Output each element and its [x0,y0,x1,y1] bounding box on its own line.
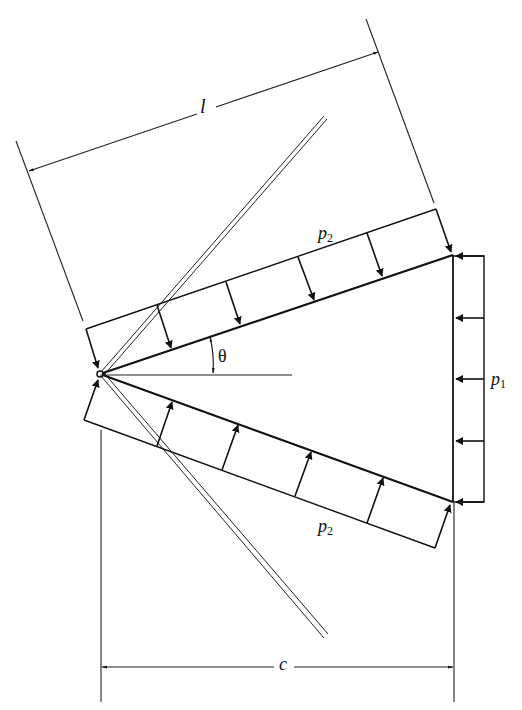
apex-point [97,371,103,377]
dimension-line-l-left [29,114,197,171]
base-p1-load [453,256,484,502]
angle-label: θ [218,347,227,365]
lower-surface [100,374,453,502]
lower-p2-sub: 2 [327,524,333,538]
wedge-body [100,255,453,502]
lower-load-envelope [84,420,435,548]
dimension-c [101,430,454,702]
length-label: l [200,96,206,116]
shock-lines [101,116,328,638]
wedge-diagram [0,0,522,710]
dimension-line-l-right [216,52,378,107]
p1-sub: 1 [500,377,506,391]
upper-load-envelope [86,209,436,329]
upper-surface [100,255,453,374]
lower-p2-label: p2 [318,517,333,537]
upper-p2-label: p2 [318,224,333,244]
lower-p2-load [84,380,450,548]
dimension-l [16,19,434,321]
upper-p2-base: p [318,223,327,243]
upper-p2-load [86,209,451,368]
extension-line-right [366,19,434,203]
upper-p2-sub: 2 [327,231,333,245]
extension-line-left [16,141,83,321]
lower-p2-base: p [318,516,327,536]
p1-label: p1 [491,370,506,390]
chord-label: c [279,655,287,673]
angle-arc [210,337,213,373]
p1-base: p [491,369,500,389]
